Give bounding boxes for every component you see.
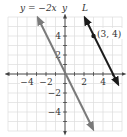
x-tick-4: 4: [100, 77, 106, 87]
y-tick-minus-2: −2: [48, 88, 61, 98]
x-tick-minus-4: −4: [20, 77, 34, 87]
line-label-L: L: [81, 3, 88, 13]
line-label-y-equals-minus-2x: y = −2x: [19, 3, 57, 13]
point-3-4: [91, 34, 95, 38]
x-tick-2: 2: [81, 77, 87, 87]
x-tick-minus-2: −2: [39, 77, 52, 87]
point-label: (3, 4): [97, 29, 121, 39]
y-tick-minus-4: −4: [48, 107, 62, 117]
y-tick-4: 4: [55, 31, 61, 41]
y-axis-label: y: [61, 3, 68, 13]
coordinate-plane: −4 −2 2 4 4 2 −2 −4 (3, 4) y = −2x y L: [0, 0, 127, 137]
